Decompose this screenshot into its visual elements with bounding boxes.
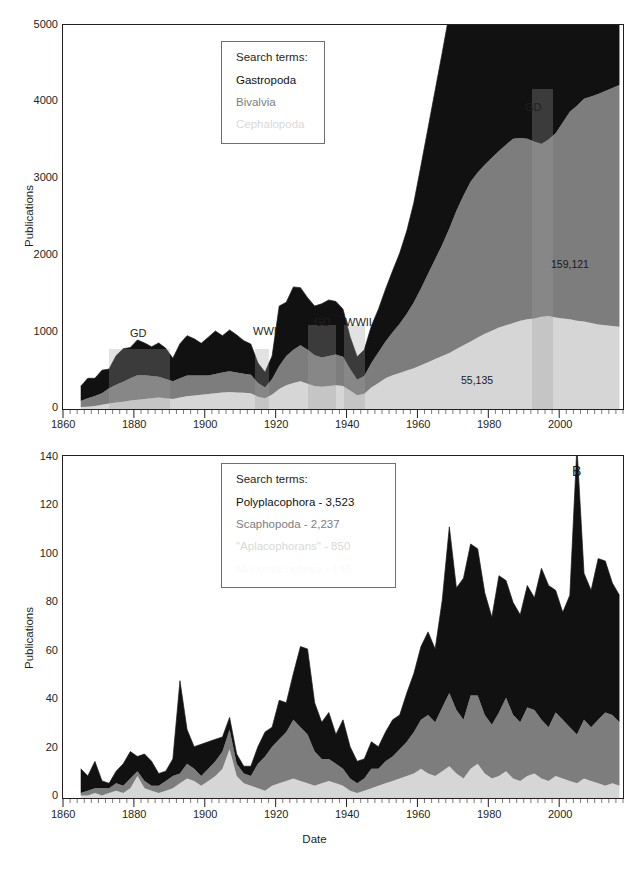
panel-a-xtick-1900: 1900 bbox=[193, 418, 217, 430]
panel-b-xtick-1880: 1880 bbox=[122, 808, 146, 820]
panel-a-event-label-gd-1992: GD bbox=[525, 101, 542, 113]
panel-a-ytick-1000: 1000 bbox=[22, 325, 58, 337]
panel-a-series-layer bbox=[63, 25, 623, 409]
panel-b-ytick-40: 40 bbox=[26, 692, 58, 704]
panel-a-event-label-gd-1929: GD bbox=[314, 316, 331, 328]
panel-a-event-label-wwi: WWI bbox=[253, 325, 277, 337]
panel-a-xtick-1980: 1980 bbox=[477, 418, 501, 430]
panel-b-xtick-1980: 1980 bbox=[477, 808, 501, 820]
panel-a-xtick-2000: 2000 bbox=[548, 418, 572, 430]
panel-b-legend: Search terms: Polyplacophora - 3,523 Sca… bbox=[221, 463, 396, 588]
panel-b-ytick-0: 0 bbox=[26, 789, 58, 801]
panel-b-xtick-2000: 2000 bbox=[548, 808, 572, 820]
panel-b-xtick-1940: 1940 bbox=[335, 808, 359, 820]
panel-a-xtick-1880: 1880 bbox=[122, 418, 146, 430]
panel-b-legend-title: Search terms: bbox=[236, 473, 381, 485]
panel-b-ytick-140: 140 bbox=[26, 450, 58, 462]
panel-b-ytick-80: 80 bbox=[26, 595, 58, 607]
panel-a-legend-entry-cephalopoda: Cephalopoda bbox=[236, 118, 310, 131]
panel-a-legend-entry-gastropoda: Gastropoda bbox=[236, 74, 310, 87]
panel-b-xtick-1900: 1900 bbox=[193, 808, 217, 820]
panel-b-legend-entry-monoplacophora: Monoplacophora - 146 bbox=[236, 563, 381, 576]
panel-b-legend-entry-aplacophorans: "Aplacophorans" - 850 bbox=[236, 540, 381, 553]
panel-b-legend-entry-scaphopoda: Scaphopoda - 2,237 bbox=[236, 518, 381, 531]
panel-b-ytick-120: 120 bbox=[26, 498, 58, 510]
panel-a-xtick-1860: 1860 bbox=[51, 418, 75, 430]
panel-a-plot-area bbox=[62, 24, 624, 410]
panel-b-ytick-100: 100 bbox=[26, 547, 58, 559]
panel-a-xtick-1960: 1960 bbox=[406, 418, 430, 430]
panel-b-x-ticks bbox=[62, 799, 626, 808]
panel-b: Publications 140 120 100 80 60 40 20 0 B… bbox=[0, 437, 629, 877]
panel-a-event-label-wwii: WWII bbox=[345, 316, 372, 328]
panel-a-x-ticks bbox=[62, 410, 626, 419]
panel-a-xtick-1920: 1920 bbox=[264, 418, 288, 430]
panel-a-ytick-3000: 3000 bbox=[22, 171, 58, 183]
panel-a-legend-title: Search terms: bbox=[236, 51, 310, 63]
panel-a: Publications 5000 4000 3000 2000 1000 0 … bbox=[0, 0, 629, 432]
panel-a-ytick-5000: 5000 bbox=[22, 18, 58, 30]
panel-a-legend-entry-bivalvia: Bivalvia bbox=[236, 96, 310, 109]
panel-b-legend-entry-polyplacophora: Polyplacophora - 3,523 bbox=[236, 496, 381, 509]
panel-a-event-label-gd-1873: GD bbox=[130, 327, 147, 339]
panel-a-ytick-4000: 4000 bbox=[22, 94, 58, 106]
panel-b-xtick-1860: 1860 bbox=[51, 808, 75, 820]
panel-a-annotation-bivalvia: 159,121 bbox=[551, 258, 589, 270]
panel-a-annotation-cephalopoda: 55,135 bbox=[461, 374, 493, 386]
panel-a-xtick-1940: 1940 bbox=[335, 418, 359, 430]
panel-a-annotation-gastropoda: 211,104 bbox=[358, 203, 395, 215]
panel-b-xtick-1920: 1920 bbox=[264, 808, 288, 820]
panel-b-ytick-20: 20 bbox=[26, 741, 58, 753]
publications-figure: Publications 5000 4000 3000 2000 1000 0 … bbox=[0, 0, 629, 877]
panel-b-x-axis-title: Date bbox=[0, 833, 629, 845]
panel-b-xtick-1960: 1960 bbox=[406, 808, 430, 820]
panel-b-ytick-60: 60 bbox=[26, 644, 58, 656]
panel-a-legend: Search terms: Gastropoda Bivalvia Cephal… bbox=[221, 41, 325, 144]
panel-a-ytick-2000: 2000 bbox=[22, 248, 58, 260]
panel-a-ytick-0: 0 bbox=[22, 401, 58, 413]
